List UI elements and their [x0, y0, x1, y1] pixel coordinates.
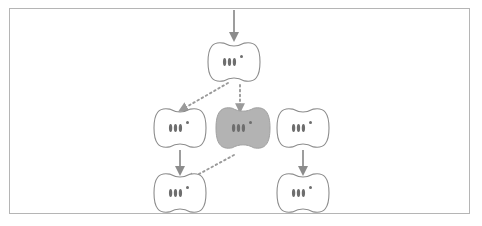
organelle-oval: [228, 58, 231, 66]
organelle-oval: [174, 189, 177, 197]
organelle-oval: [169, 189, 172, 197]
diagram-canvas: [0, 0, 482, 226]
nucleolus-dot: [249, 121, 252, 124]
organelle-oval: [169, 124, 172, 132]
organelle-oval: [297, 189, 300, 197]
organelle-oval: [297, 124, 300, 132]
cell-middle-right[interactable]: [277, 109, 329, 148]
cell-bottom-left[interactable]: [154, 174, 206, 213]
cell-bottom-right[interactable]: [277, 174, 329, 213]
arrow-dotted: [181, 83, 228, 110]
organelle-oval: [232, 124, 235, 132]
organelle-oval: [237, 124, 240, 132]
organelle-oval: [233, 58, 236, 66]
nucleolus-dot: [240, 55, 243, 58]
cell-top-center[interactable]: [208, 43, 260, 82]
nucleolus-dot: [309, 121, 312, 124]
organelle-oval: [179, 189, 182, 197]
organelle-oval: [174, 124, 177, 132]
organelle-oval: [292, 189, 295, 197]
nucleolus-dot: [186, 121, 189, 124]
diagram-root: [0, 0, 482, 226]
organelle-oval: [302, 189, 305, 197]
organelle-oval: [302, 124, 305, 132]
arrows-layer: [180, 10, 303, 180]
organelle-oval: [242, 124, 245, 132]
organelle-oval: [292, 124, 295, 132]
organelle-oval: [179, 124, 182, 132]
cells-layer: [154, 43, 329, 213]
organelle-oval: [223, 58, 226, 66]
cell-middle-left[interactable]: [154, 109, 206, 148]
nucleolus-dot: [186, 186, 189, 189]
cell-middle-center[interactable]: [216, 108, 270, 148]
nucleolus-dot: [309, 186, 312, 189]
